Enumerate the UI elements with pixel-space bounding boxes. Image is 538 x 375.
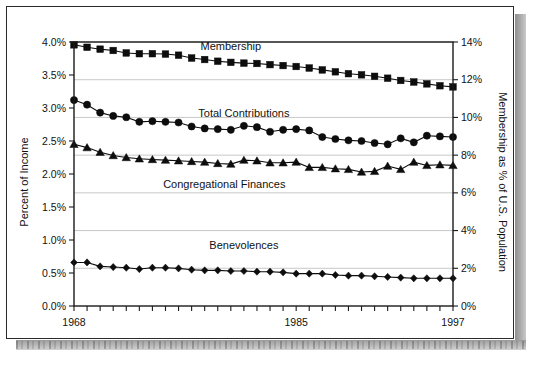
data-point-diamond (423, 275, 430, 282)
data-point-diamond (332, 271, 339, 278)
data-point-circle (410, 139, 417, 146)
chart-canvas: 0.0%0.5%1.0%1.5%2.0%2.5%3.0%3.5%4.0% 0%2… (7, 7, 515, 340)
data-point-diamond (149, 264, 156, 271)
series-line-congregational-finances (74, 144, 453, 172)
right-axis-tick-label: 6% (461, 186, 476, 198)
line-chart-figure: 0.0%0.5%1.0%1.5%2.0%2.5%3.0%3.5%4.0% 0%2… (7, 7, 515, 340)
data-point-triangle (383, 162, 391, 169)
left-axis-tick-label: 1.0% (42, 234, 66, 246)
data-point-diamond (280, 269, 287, 276)
right-axis-tick-label: 12% (461, 73, 482, 85)
data-point-square (358, 72, 365, 79)
data-point-circle (384, 141, 391, 148)
data-point-circle (345, 137, 352, 144)
series-line-benevolences (74, 262, 453, 278)
data-point-diamond (136, 265, 143, 272)
data-point-circle (280, 126, 287, 133)
left-axis-tick-label: 2.0% (42, 168, 66, 180)
data-point-circle (253, 124, 260, 131)
right-axis-tick-label: 10% (461, 111, 482, 123)
data-point-square (332, 68, 339, 75)
data-point-square (293, 63, 300, 70)
data-point-circle (240, 122, 247, 129)
right-axis-tick-label: 4% (461, 224, 476, 236)
data-point-diamond (214, 267, 221, 274)
data-point-circle (83, 101, 90, 108)
data-point-diamond (201, 267, 208, 274)
page-edge-noise (16, 341, 524, 349)
data-point-square (306, 65, 313, 72)
data-point-circle (371, 139, 378, 146)
plot-frame-rect (74, 42, 453, 306)
page-shadow-right (515, 14, 526, 348)
x-axis: 196819851997 (62, 306, 465, 328)
data-point-square (201, 56, 208, 63)
data-point-circle (266, 128, 273, 135)
data-point-square (424, 81, 431, 88)
data-point-diamond (293, 270, 300, 277)
series-line-membership (74, 45, 453, 87)
data-point-square (371, 73, 378, 80)
data-point-triangle (410, 158, 418, 165)
data-point-diamond (254, 268, 261, 275)
data-point-diamond (410, 275, 417, 282)
data-point-circle (214, 126, 221, 133)
data-point-diamond (188, 266, 195, 273)
data-point-square (123, 50, 130, 57)
data-point-diamond (175, 265, 182, 272)
data-point-circle (423, 132, 430, 139)
data-point-square (97, 46, 104, 53)
data-point-square (149, 50, 156, 57)
data-point-square (241, 60, 248, 67)
data-point-square (162, 51, 169, 58)
scanned-page: 0.0%0.5%1.0%1.5%2.0%2.5%3.0%3.5%4.0% 0%2… (6, 6, 514, 339)
y2-axis-title: Membership as % of U.S. Population (497, 92, 509, 272)
data-point-square (280, 62, 287, 69)
data-point-diamond (162, 264, 169, 271)
left-axis-tick-label: 1.5% (42, 201, 66, 213)
series-label-total-contributions: Total Contributions (198, 107, 290, 119)
data-point-circle (293, 126, 300, 133)
left-axis-tick-label: 2.5% (42, 135, 66, 147)
data-point-square (175, 52, 182, 59)
data-point-diamond (84, 259, 91, 266)
data-point-circle (123, 114, 130, 121)
right-axis-tick-label: 2% (461, 262, 476, 274)
data-point-square (410, 79, 417, 86)
data-point-square (214, 58, 221, 65)
series-annotations: MembershipTotal ContributionsCongregatio… (163, 40, 290, 251)
right-axis-tick-label: 8% (461, 149, 476, 161)
data-point-circle (332, 135, 339, 142)
data-point-circle (162, 118, 169, 125)
data-point-triangle (96, 148, 104, 155)
gridlines-group (74, 42, 453, 268)
data-point-circle (306, 127, 313, 134)
plot-frame (74, 42, 453, 306)
left-axis-tick-label: 3.5% (42, 69, 66, 81)
data-point-circle (136, 118, 143, 125)
data-point-diamond (97, 263, 104, 270)
data-point-square (254, 60, 261, 67)
data-point-circle (149, 118, 156, 125)
right-axis-tick-label: 14% (461, 36, 482, 48)
data-point-square (84, 44, 91, 51)
data-point-diamond (371, 273, 378, 280)
series-label-congregational-finances: Congregational Finances (163, 178, 286, 190)
data-point-diamond (384, 273, 391, 280)
left-axis-tick-label: 3.0% (42, 102, 66, 114)
data-point-square (384, 75, 391, 82)
data-point-square (267, 61, 274, 68)
data-point-diamond (437, 275, 444, 282)
data-point-diamond (306, 270, 313, 277)
data-point-diamond (345, 272, 352, 279)
left-axis: 0.0%0.5%1.0%1.5%2.0%2.5%3.0%3.5%4.0% (42, 36, 74, 312)
x-axis-tick-label: 1997 (441, 316, 465, 328)
data-point-circle (188, 123, 195, 130)
data-point-diamond (319, 270, 326, 277)
data-point-square (228, 59, 235, 66)
data-point-square (397, 77, 404, 84)
left-axis-tick-label: 4.0% (42, 36, 66, 48)
data-point-circle (319, 133, 326, 140)
data-point-circle (110, 112, 117, 119)
data-point-circle (97, 109, 104, 116)
